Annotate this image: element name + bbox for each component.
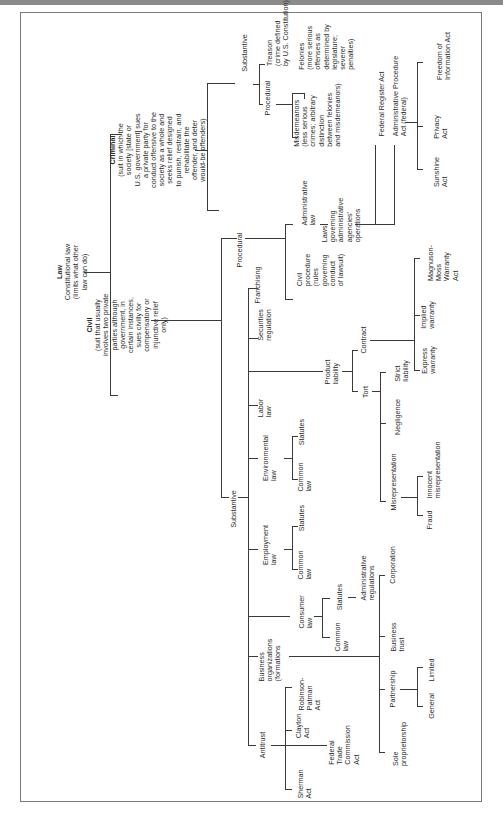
connector <box>221 497 229 498</box>
connector <box>110 395 118 396</box>
connector <box>417 476 423 477</box>
connector <box>271 745 327 746</box>
connector <box>379 689 385 690</box>
connector <box>248 288 249 745</box>
connector <box>284 549 292 550</box>
sole-proprietorship: Sole proprietorship <box>392 722 408 766</box>
emp-common-law: Common law <box>297 550 313 579</box>
connector <box>284 458 292 459</box>
privacy-act: Privacy Act <box>433 115 449 139</box>
connector <box>417 667 418 707</box>
connector <box>248 405 258 406</box>
connector <box>352 350 353 392</box>
connector <box>379 636 385 637</box>
felonies: Felonies (more serious offenses as deter… <box>298 24 355 70</box>
connector <box>414 258 420 259</box>
connector <box>417 476 418 516</box>
connector <box>248 338 258 339</box>
consumer-law: Consumer law <box>298 595 314 628</box>
agencies-laws: Laws governing administrative agencies' … <box>321 198 362 242</box>
connector <box>380 501 386 502</box>
connector <box>394 145 395 225</box>
strict-liability: Strict liability <box>394 360 410 382</box>
connector <box>259 104 263 105</box>
magnuson-moss: Magnuson- Moss Warranty Act <box>427 245 460 281</box>
connector <box>248 371 323 372</box>
treason: Treason (crime defined by U.S. Constitut… <box>266 0 291 66</box>
connector <box>375 145 376 225</box>
connector <box>238 497 248 498</box>
civil-substantive: Substantive <box>230 490 238 528</box>
connector <box>320 224 328 225</box>
env-statutes: Statutes <box>298 419 306 445</box>
connector <box>401 497 417 498</box>
connector <box>248 656 258 657</box>
connector <box>248 458 258 459</box>
connector <box>417 706 423 707</box>
connector <box>379 575 385 576</box>
federal-register-act: Federal Register Act <box>378 71 386 136</box>
corporation: Corporation <box>389 546 397 584</box>
express-warranty: Express warranty <box>421 346 437 374</box>
product-liability: Product liability <box>324 360 340 385</box>
connector <box>285 789 292 790</box>
business-trust: Business trust <box>390 622 406 651</box>
connector <box>352 391 358 392</box>
business-organizations: Business organizations (formations <box>258 639 283 682</box>
connector <box>285 687 286 790</box>
connector <box>221 238 222 497</box>
emp-statutes: Statutes <box>298 505 306 531</box>
foia: Freedom of Information Act <box>436 32 452 80</box>
robinson-patman-act: Robinson- Patman Act <box>298 678 323 711</box>
labor-law: Labor law <box>257 399 273 417</box>
con-common-law: Common law <box>334 622 350 651</box>
antitrust: Antitrust <box>259 732 267 758</box>
connector <box>322 598 330 599</box>
connector <box>355 224 375 225</box>
sunshine-act: Sunshine Act <box>433 157 449 187</box>
connector <box>292 479 298 480</box>
connector <box>221 238 237 239</box>
connector <box>292 137 298 138</box>
partnership: Partnership <box>389 671 397 708</box>
connector <box>380 372 381 502</box>
connector <box>248 745 256 746</box>
connector <box>285 299 293 300</box>
criminal-substantive: Substantive <box>241 34 249 72</box>
connector <box>285 687 292 688</box>
connector <box>289 656 379 657</box>
connector <box>322 598 323 638</box>
connector <box>314 616 322 617</box>
connector <box>322 637 330 638</box>
civil-procedural: Procedural <box>236 233 244 268</box>
connector <box>292 93 304 94</box>
contract: Contract <box>360 326 368 353</box>
fraud: Fraud <box>426 511 434 530</box>
connector <box>207 83 208 211</box>
connector <box>370 340 414 341</box>
connector <box>379 752 385 753</box>
connector <box>292 436 298 437</box>
connector <box>375 224 394 225</box>
connector <box>400 689 417 690</box>
connector <box>417 126 423 127</box>
innocent-misrepresentation: Innocent misrepresentation <box>426 441 442 498</box>
connector <box>405 122 417 123</box>
connector <box>417 62 418 170</box>
connector <box>285 224 293 225</box>
environmental-law: Environmental law <box>262 435 278 481</box>
connector <box>352 350 358 351</box>
connector <box>245 238 285 239</box>
securities-regulation: Securities regulation <box>257 309 273 341</box>
civil-procedure: Civil procedure (rules governing conduct… <box>296 254 345 286</box>
connector <box>207 83 235 84</box>
connector <box>292 93 293 137</box>
connector <box>342 371 352 372</box>
env-common-law: Common law <box>297 462 313 491</box>
limited: Limited <box>428 658 436 681</box>
connector <box>195 150 207 151</box>
civil-node: Civil(suit that usually involves two pri… <box>86 294 168 357</box>
connector <box>417 515 423 516</box>
connector <box>414 370 420 371</box>
connector <box>164 320 221 321</box>
